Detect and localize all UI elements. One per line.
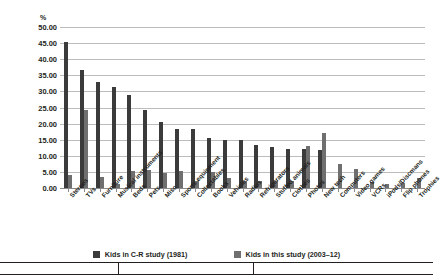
bar-group bbox=[124, 27, 140, 188]
y-tick-label: 10.00 bbox=[1, 151, 57, 160]
x-label-cell: Video games bbox=[346, 190, 362, 246]
x-label-cell: Clothes bbox=[282, 190, 298, 246]
bar-group bbox=[330, 27, 346, 188]
legend-label: Kids in C-R study (1981) bbox=[105, 250, 188, 259]
bar-group bbox=[346, 27, 362, 188]
y-tick-label: 25.00 bbox=[1, 103, 57, 112]
bar bbox=[163, 173, 167, 188]
x-label-cell: Sports equipment bbox=[171, 190, 187, 246]
x-label-cell: Misc bbox=[155, 190, 171, 246]
y-tick-label: 30.00 bbox=[1, 87, 57, 96]
x-label-cell: Stereos bbox=[60, 190, 76, 246]
legend-label: Kids in this study (2003–12) bbox=[246, 250, 341, 259]
x-label-cell: Photos bbox=[298, 190, 314, 246]
x-label-cell: Musical instruments bbox=[108, 190, 124, 246]
x-label-cell: Beds bbox=[124, 190, 140, 246]
legend-swatch bbox=[234, 251, 241, 258]
y-tick-label: 0.00 bbox=[1, 184, 57, 193]
bottom-rule-top bbox=[0, 262, 433, 263]
bar-group bbox=[187, 27, 203, 188]
bar bbox=[112, 87, 116, 188]
bar-group bbox=[92, 27, 108, 188]
x-label-cell: iPods/Discmans bbox=[378, 190, 394, 246]
x-label-cell: Stuffed animals bbox=[266, 190, 282, 246]
bottom-rule-divider-1 bbox=[118, 262, 119, 274]
bar-group bbox=[155, 27, 171, 188]
x-label-cell: Collectables bbox=[187, 190, 203, 246]
bar bbox=[147, 170, 151, 188]
y-tick-label: 5.00 bbox=[1, 167, 57, 176]
bar-group bbox=[60, 27, 76, 188]
bar-group bbox=[251, 27, 267, 188]
x-label-cell: Radios bbox=[235, 190, 251, 246]
y-tick-label: 45.00 bbox=[1, 39, 57, 48]
y-tick-label: 15.00 bbox=[1, 135, 57, 144]
x-axis-labels: StereosTVsFurnitureMusical instrumentsBe… bbox=[60, 190, 425, 246]
legend-swatch bbox=[93, 251, 100, 258]
bar-groups bbox=[60, 27, 425, 188]
bar bbox=[179, 171, 183, 188]
x-label-cell: TVs bbox=[76, 190, 92, 246]
bar bbox=[100, 177, 104, 188]
bar-group bbox=[393, 27, 409, 188]
bar-group bbox=[76, 27, 92, 188]
x-label-cell: Flip phones bbox=[393, 190, 409, 246]
x-label-cell: New tech bbox=[314, 190, 330, 246]
x-label-cell: Pets bbox=[139, 190, 155, 246]
bar-group bbox=[266, 27, 282, 188]
bar bbox=[68, 175, 72, 188]
bar-group bbox=[362, 27, 378, 188]
x-label-cell: Refrigerators bbox=[251, 190, 267, 246]
x-label-cell: Vehicles bbox=[219, 190, 235, 246]
bar bbox=[96, 82, 100, 188]
y-axis-unit-label: % bbox=[40, 14, 46, 21]
x-label-cell: VCRs bbox=[362, 190, 378, 246]
bar-group bbox=[314, 27, 330, 188]
bottom-rule-divider-2 bbox=[253, 262, 254, 274]
bar-group bbox=[171, 27, 187, 188]
plot-area bbox=[60, 27, 425, 188]
x-label-cell: Books bbox=[203, 190, 219, 246]
bar-group bbox=[235, 27, 251, 188]
bar bbox=[64, 42, 68, 189]
legend-item: Kids in this study (2003–12) bbox=[234, 250, 341, 259]
y-axis-tick-labels: 50.0045.0040.0035.0030.0025.0020.0015.00… bbox=[0, 27, 57, 188]
bar-group bbox=[219, 27, 235, 188]
x-label-cell: Computers bbox=[330, 190, 346, 246]
x-label-cell: Furniture bbox=[92, 190, 108, 246]
y-tick-label: 40.00 bbox=[1, 55, 57, 64]
chart-legend: Kids in C-R study (1981)Kids in this stu… bbox=[0, 246, 433, 262]
y-tick-label: 20.00 bbox=[1, 119, 57, 128]
x-label-cell: Trophies bbox=[409, 190, 425, 246]
y-tick-label: 50.00 bbox=[1, 23, 57, 32]
legend-item: Kids in C-R study (1981) bbox=[93, 250, 188, 259]
bar-group bbox=[378, 27, 394, 188]
bar-group bbox=[108, 27, 124, 188]
y-tick-label: 35.00 bbox=[1, 71, 57, 80]
